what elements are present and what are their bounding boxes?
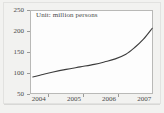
line-series-svg (31, 11, 154, 95)
x-tick-mark (83, 94, 84, 97)
unit-annotation: Unit: million persons (36, 11, 98, 20)
y-tick-label: 200 (14, 28, 25, 35)
x-tick-mark (118, 94, 119, 97)
y-axis: 50100150200250 (0, 0, 30, 113)
series-line-value (33, 28, 152, 77)
y-tick-label: 150 (14, 49, 25, 56)
x-tick-label: 2007 (137, 95, 151, 103)
x-tick-label: 2006 (102, 95, 116, 103)
plot-area (30, 10, 153, 94)
x-tick-mark (48, 94, 49, 97)
chart-figure: 50100150200250 Unit: million persons 200… (0, 0, 164, 113)
y-tick-label: 250 (14, 7, 25, 14)
x-tick-label: 2004 (32, 95, 46, 103)
x-tick-label: 2005 (67, 95, 81, 103)
y-tick-label: 50 (17, 91, 24, 98)
x-axis: 2004200520062007 (30, 95, 153, 107)
y-tick-label: 100 (14, 70, 25, 77)
